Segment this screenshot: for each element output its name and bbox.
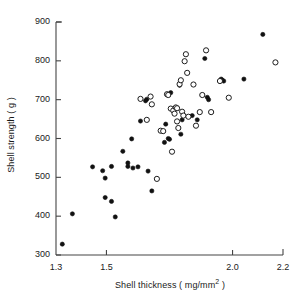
data-points-layer (60, 32, 278, 246)
data-point-filled (90, 165, 94, 169)
data-point-filled (164, 122, 168, 126)
data-point-open (182, 59, 187, 64)
data-point-filled (103, 176, 107, 180)
x-axis-label-base: Shell thickness ( mg/mm (115, 280, 215, 290)
data-point-filled (131, 166, 135, 170)
data-point-filled (261, 32, 265, 36)
y-tick-label: 900 (24, 16, 50, 26)
data-point-filled (103, 195, 107, 199)
y-axis-label: Shell strength ( g ) (6, 97, 16, 173)
data-point-open (174, 119, 179, 124)
data-point-filled (150, 189, 154, 193)
scatter-plot-figure: Shell strength ( g ) Shell thickness ( m… (0, 0, 302, 305)
data-point-filled (113, 215, 117, 219)
data-point-filled (121, 149, 125, 153)
data-point-open (193, 123, 198, 128)
y-tick-label: 700 (24, 94, 50, 104)
y-tick-label: 600 (24, 133, 50, 143)
data-point-filled (109, 199, 113, 203)
x-tick-label: 2.2 (270, 262, 296, 272)
x-axis-label: Shell thickness ( mg/mm2 ) (56, 280, 284, 290)
data-point-filled (179, 132, 183, 136)
data-point-open (217, 78, 222, 83)
data-point-filled (60, 242, 64, 246)
data-point-open (273, 60, 278, 65)
data-point-open (172, 111, 177, 116)
data-point-open (154, 176, 159, 181)
data-point-filled (70, 212, 74, 216)
data-point-open (144, 117, 149, 122)
data-point-open (226, 95, 231, 100)
data-point-open (203, 48, 208, 53)
data-point-open (148, 94, 153, 99)
plot-canvas (0, 0, 302, 305)
data-point-open (176, 125, 181, 130)
data-point-open (166, 92, 171, 97)
data-point-open (181, 113, 186, 118)
data-point-filled (130, 137, 134, 141)
data-point-filled (146, 169, 150, 173)
y-tick-label: 800 (24, 55, 50, 65)
data-point-filled (126, 164, 130, 168)
data-point-filled (138, 119, 142, 123)
data-point-open (169, 149, 174, 154)
data-point-open (183, 52, 188, 57)
data-point-open (191, 82, 196, 87)
y-tick-label: 400 (24, 210, 50, 220)
data-point-open (197, 109, 202, 114)
data-point-open (174, 106, 179, 111)
data-point-filled (242, 77, 246, 81)
data-point-open (185, 70, 190, 75)
data-point-filled (136, 165, 140, 169)
data-point-open (209, 109, 214, 114)
data-point-open (149, 102, 154, 107)
data-point-filled (109, 164, 113, 168)
y-tick-label: 300 (24, 249, 50, 259)
data-point-open (161, 129, 166, 134)
data-point-filled (203, 56, 207, 60)
x-tick-label: 2.0 (220, 262, 246, 272)
x-tick-label: 1.5 (93, 262, 119, 272)
data-point-filled (162, 140, 166, 144)
data-point-filled (206, 98, 210, 102)
data-point-filled (101, 169, 105, 173)
data-point-filled (195, 118, 199, 122)
data-point-open (200, 92, 205, 97)
data-point-open (178, 78, 183, 83)
data-point-open (138, 96, 143, 101)
y-tick-label: 500 (24, 171, 50, 181)
data-point-filled (167, 137, 171, 141)
data-point-open (186, 114, 191, 119)
y-axis-label-container: Shell strength ( g ) (0, 0, 22, 270)
x-tick-label: 1.3 (43, 262, 69, 272)
x-axis-label-tail: ) (219, 280, 225, 290)
